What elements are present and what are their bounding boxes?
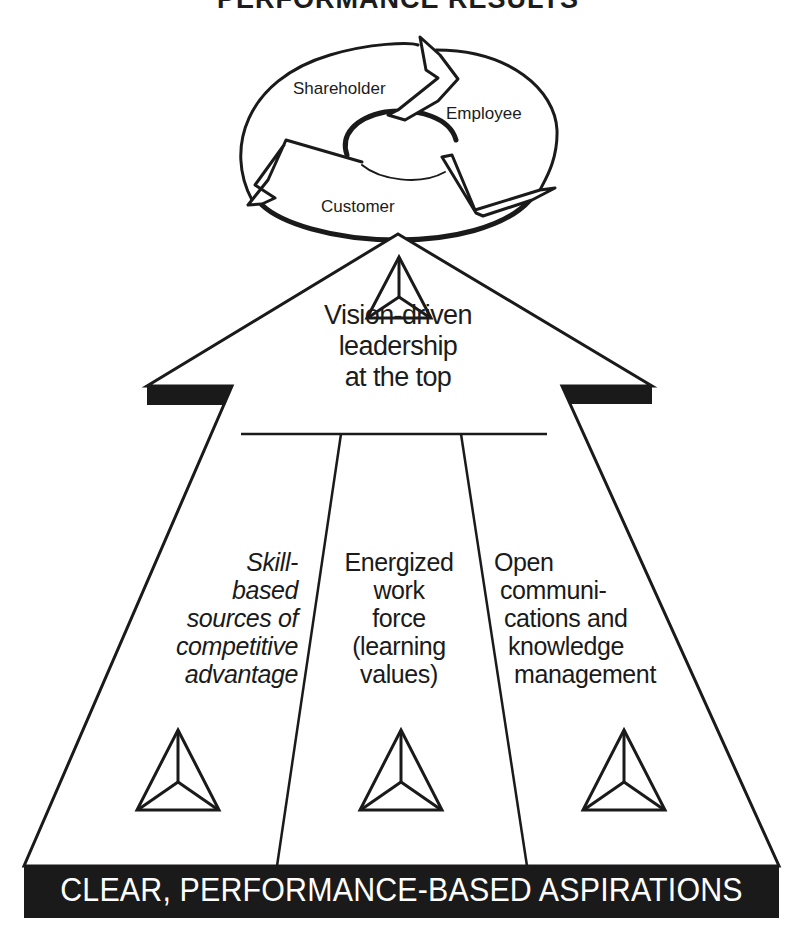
pillar-label-line: knowledge [490,632,690,660]
employee-arrow [442,155,555,216]
cycle-diagram [241,37,557,240]
cycle-inner-arc-bottom [362,165,445,180]
foundation-label: CLEAR, PERFORMANCE-BASED ASPIRATIONS [54,873,749,906]
pillar-label-line: values) [330,660,468,688]
right-wing-bar [562,385,652,404]
pillar-label-line: based [150,576,298,604]
pillar-label-line: cations and [490,604,690,632]
pillar-label-line: force [330,604,468,632]
diagram-title: PERFORMANCE RESULTS [0,0,796,13]
pillar-label-line: advantage [150,660,298,688]
pillar-label-line: sources of [150,604,298,632]
cycle-label-shareholder: Shareholder [293,80,386,97]
apex-label-line: leadership [248,331,548,362]
pillar-label-line: Energized [330,548,468,576]
pillar-skill-based-advantage: Skill- based sources of competitive adva… [150,548,298,688]
pillar-label-line: (learning [330,632,468,660]
cycle-label-employee: Employee [446,105,522,122]
pillar-label-line: management [490,660,690,688]
apex-label-line: Vision-driven [248,300,548,331]
diagram-canvas [0,0,796,941]
pillar-label-line: communi- [490,576,690,604]
pillar-label-line: work [330,576,468,604]
pillar-label-line: competitive [150,632,298,660]
left-wing-bar [147,385,232,405]
pillar-label-line: Skill- [150,548,298,576]
pillar-energized-work-force: Energized work force (learning values) [330,548,468,688]
cycle-label-customer: Customer [321,198,395,215]
pillar-label-line: Open [490,548,690,576]
apex-label-line: at the top [248,362,548,393]
apex-label: Vision-driven leadership at the top [248,300,548,393]
pillar-open-communications: Open communi- cations and knowledge mana… [490,548,690,688]
